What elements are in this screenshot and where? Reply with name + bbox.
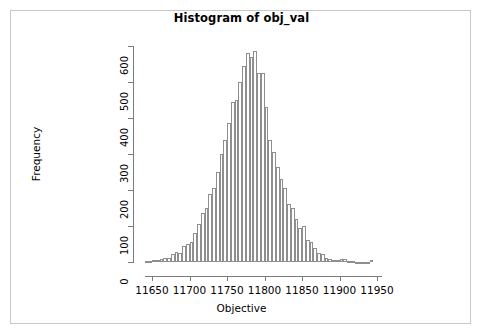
x-axis-tick bbox=[340, 276, 341, 281]
y-axis-tick-label: 600 bbox=[82, 40, 124, 52]
y-axis-title: Frequency bbox=[30, 84, 42, 224]
x-axis-line bbox=[145, 276, 382, 277]
r-plot-device: Histogram of obj_val 0100200300400500600… bbox=[0, 0, 483, 334]
y-axis-tick-label-text: 0 bbox=[119, 262, 130, 302]
histogram-bar bbox=[370, 260, 374, 262]
x-axis-tick bbox=[152, 276, 153, 281]
x-axis-tick bbox=[227, 276, 228, 281]
x-axis-tick bbox=[190, 276, 191, 281]
plot-region: 0100200300400500600 Frequency 1165011700… bbox=[0, 0, 483, 334]
y-axis-tick-label-text: 100 bbox=[119, 226, 130, 266]
y-axis-line bbox=[133, 46, 134, 263]
x-axis-tick-label: 11950 bbox=[354, 284, 400, 296]
x-axis-tick bbox=[377, 276, 378, 281]
y-axis-tick-label-text: 500 bbox=[119, 82, 130, 122]
x-axis-tick bbox=[265, 276, 266, 281]
x-axis-title: Objective bbox=[0, 302, 483, 314]
y-axis-tick-label-text: 300 bbox=[119, 154, 130, 194]
y-axis-tick-label-text: 600 bbox=[119, 46, 130, 86]
y-axis-tick-label-text: 400 bbox=[119, 118, 130, 158]
y-axis-tick-label-text: 200 bbox=[119, 190, 130, 230]
x-axis-tick bbox=[302, 276, 303, 281]
